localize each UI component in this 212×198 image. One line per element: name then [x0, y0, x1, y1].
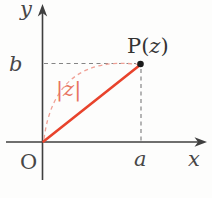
b-label: b	[9, 52, 22, 76]
modulus-label: |z|	[56, 77, 81, 102]
point-label: P(z)	[127, 34, 169, 58]
complex-plane-figure: y x O b a |z| P(z)	[0, 0, 212, 198]
point-label-suffix: )	[160, 34, 168, 58]
modulus-arc	[44, 63, 139, 139]
a-label: a	[134, 147, 147, 171]
origin-label: O	[20, 150, 37, 174]
x-axis-label: x	[188, 147, 200, 171]
diagram-canvas: y x O b a |z| P(z)	[0, 0, 212, 198]
y-axis-label: y	[19, 0, 33, 21]
point-p-dot	[137, 61, 144, 68]
point-label-variable: z	[148, 34, 161, 58]
point-label-prefix: P(	[127, 34, 149, 58]
